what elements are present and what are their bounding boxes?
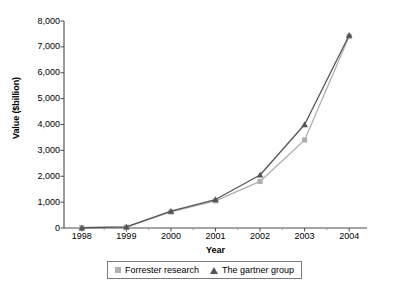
chart-legend: Forrester researchThe gartner group <box>107 261 302 279</box>
data-point-marker <box>301 121 308 127</box>
legend-label: The gartner group <box>222 266 294 275</box>
legend-square-marker-icon <box>115 267 121 273</box>
legend-entry: Forrester research <box>115 266 199 275</box>
data-point-marker <box>302 137 307 142</box>
legend-triangle-marker-icon <box>210 267 218 274</box>
legend-label: Forrester research <box>125 266 199 275</box>
plot-area <box>0 0 393 297</box>
data-point-marker <box>257 179 262 184</box>
legend-entry: The gartner group <box>210 266 294 275</box>
chart-container: Value ($billion) 01,0002,0003,0004,0005,… <box>0 0 393 297</box>
series-2 <box>79 32 353 230</box>
